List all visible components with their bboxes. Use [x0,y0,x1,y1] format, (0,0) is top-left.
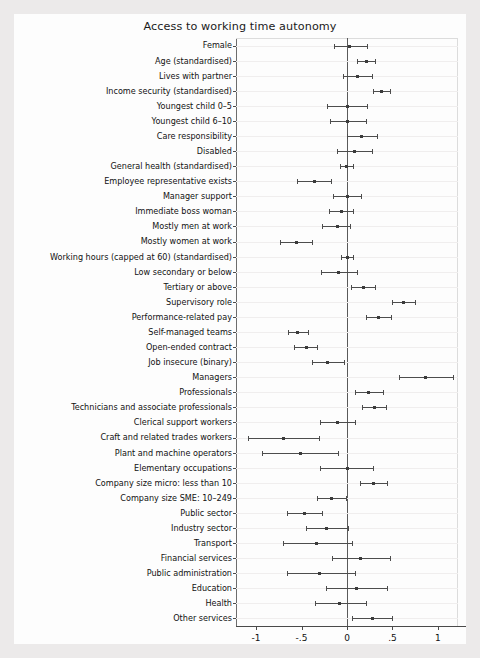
category-label: Manager support [163,189,236,203]
ci-cap-upper [355,420,356,425]
point-estimate-marker [371,617,374,620]
ci-cap-upper [346,496,347,501]
point-estimate-marker [360,135,363,138]
ci-cap-upper [331,179,332,184]
ci-cap-upper [373,466,374,471]
point-estimate-marker [282,437,285,440]
ci-cap-upper [375,59,376,64]
point-estimate-marker [336,225,339,228]
point-estimate-marker [325,527,328,530]
ci-cap-lower [287,571,288,576]
ci-cap-lower [334,44,335,49]
category-label: Plant and machine operators [115,446,236,460]
ci-cap-lower [306,526,307,531]
ci-cap-upper [357,270,358,275]
category-label: Employee representative exists [104,174,236,188]
point-estimate-marker [345,165,348,168]
ci-cap-upper [308,330,309,335]
ci-cap-lower [355,390,356,395]
gridline [236,618,458,619]
category-label: Elementary occupations [134,461,236,475]
ci-cap-upper [375,285,376,290]
ci-cap-upper [367,104,368,109]
gridline [236,317,458,318]
ci-cap-lower [337,149,338,154]
ci-cap-upper [372,74,373,79]
point-estimate-marker [367,391,370,394]
point-estimate-marker [346,256,349,259]
point-estimate-marker [299,452,302,455]
ci-cap-upper [319,436,320,441]
x-tick-label: -1 [252,633,261,643]
x-tick-mark [302,626,303,630]
ci-cap-upper [372,149,373,154]
ci-cap-lower [329,209,330,214]
category-label: Youngest child 6–10 [152,114,236,128]
point-estimate-marker [346,195,349,198]
point-estimate-marker [346,467,349,470]
ci-cap-lower [326,586,327,591]
category-label: Tertiary or above [163,280,236,294]
ci-cap-lower [351,285,352,290]
ci-cap-upper [377,134,378,139]
point-estimate-marker [318,572,321,575]
point-estimate-marker [340,210,343,213]
ci-cap-lower [399,375,400,380]
ci-cap-upper [353,255,354,260]
gridline [236,483,458,484]
ci-cap-upper [348,526,349,531]
category-label: Job insecure (binary) [148,355,236,369]
ci-cap-lower [320,420,321,425]
ci-cap-lower [315,601,316,606]
ci-cap-upper [367,44,368,49]
x-tick-mark [438,626,439,630]
point-estimate-marker [359,557,362,560]
ci-cap-lower [327,104,328,109]
ci-cap-lower [320,466,321,471]
category-label: Company size micro: less than 10 [95,476,236,490]
category-label: Public sector [180,506,236,520]
x-tick-mark [392,626,393,630]
ci-cap-upper [453,375,454,380]
category-label: General health (standardised) [111,159,236,173]
ci-cap-lower [332,556,333,561]
category-label: Transport [194,536,236,550]
ci-cap-upper [350,224,351,229]
ci-cap-upper [366,119,367,124]
ci-cap-upper [353,164,354,169]
point-estimate-marker [303,512,306,515]
ci-cap-upper [391,315,392,320]
x-axis-line [236,626,466,627]
ci-cap-lower [357,59,358,64]
gridline [236,513,458,514]
point-estimate-marker [377,316,380,319]
category-label: Supervisory role [166,295,236,309]
category-label: Craft and related trades workers [100,430,236,444]
gridline [236,61,458,62]
ci-cap-lower [392,300,393,305]
x-tick-label: 0 [344,633,350,643]
gridline [236,287,458,288]
ci-cap-lower [294,345,295,350]
ci-cap-upper [387,586,388,591]
ci-cap-lower [297,179,298,184]
category-label: Immediate boss woman [135,204,236,218]
point-estimate-marker [380,90,383,93]
point-estimate-marker [373,406,376,409]
ci-cap-lower [347,134,348,139]
category-label: Self-managed teams [148,325,236,339]
point-estimate-marker [402,301,405,304]
point-estimate-marker [348,45,351,48]
category-label: Public administration [147,566,236,580]
point-estimate-marker [356,75,359,78]
category-label: Company size SME: 10–249 [120,491,236,505]
ci-cap-lower [341,255,342,260]
point-estimate-marker [313,180,316,183]
point-estimate-marker [346,105,349,108]
ci-cap-lower [340,164,341,169]
category-label: Performance-related pay [132,310,236,324]
category-label: Clerical support workers [134,415,236,429]
category-label: Mostly men at work [152,219,236,233]
ci-cap-upper [312,240,313,245]
category-label: Mostly women at work [141,234,236,248]
